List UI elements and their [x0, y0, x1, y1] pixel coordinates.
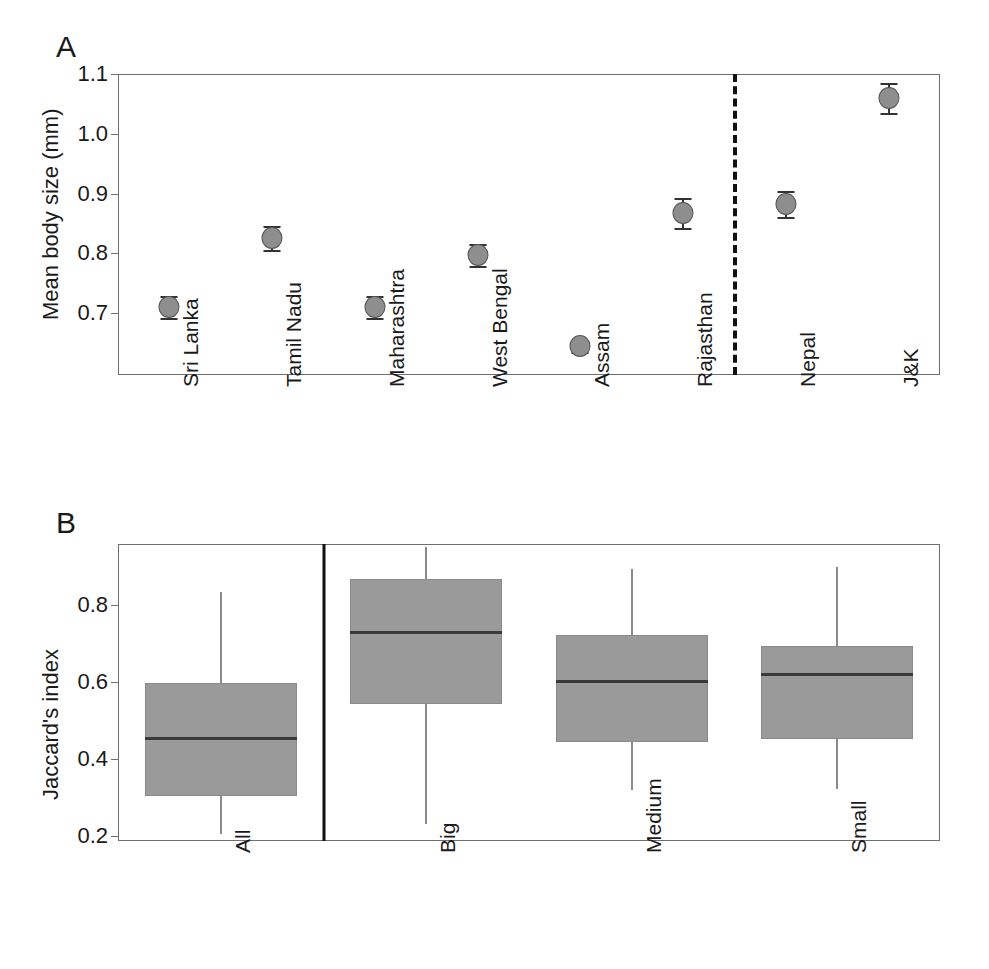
panel-b-median-line	[350, 631, 502, 634]
panel-b-median-line	[556, 680, 708, 683]
panel-b-whisker-upper	[425, 547, 427, 579]
panel-a-error-bar-cap	[675, 228, 692, 230]
panel-a-data-point	[878, 87, 899, 109]
panel-a-xtick-label: Rajasthan	[693, 292, 717, 387]
panel-b-ytick-mark	[111, 836, 118, 837]
panel-b-whisker-lower	[220, 796, 222, 835]
panel-a-ytick-label: 1.1	[50, 61, 108, 87]
panel-b-median-line	[761, 673, 913, 676]
panel-b-ytick-mark	[111, 605, 118, 606]
panel-a-error-bar-cap	[264, 250, 281, 252]
panel-b-xtick-label: Small	[847, 800, 871, 853]
panel-a-plot-frame	[118, 74, 940, 375]
panel-b-median-line	[145, 737, 297, 740]
panel-a-data-point	[159, 296, 180, 318]
panel-a-xtick-label: J&K	[899, 348, 923, 387]
figure-canvas: A Mean body size (mm) 0.70.80.91.01.1 Sr…	[0, 0, 989, 969]
panel-a-xtick-label: Tamil Nadu	[282, 282, 306, 387]
panel-a-error-bar-cap	[777, 217, 794, 219]
panel-b-xtick-label: Medium	[642, 778, 666, 853]
panel-b-ytick-label: 0.8	[50, 592, 108, 618]
panel-b-whisker-upper	[631, 569, 633, 634]
panel-a-xtick-label: Sri Lanka	[179, 298, 203, 387]
panel-b-ytick-label: 0.4	[50, 746, 108, 772]
panel-b-ytick-mark	[111, 759, 118, 760]
panel-b-letter: B	[56, 506, 76, 540]
panel-a-error-bar-cap	[675, 198, 692, 200]
panel-b-xtick-label: Big	[436, 823, 460, 853]
panel-a-xtick-label: Assam	[590, 323, 614, 387]
panel-b-ytick-label: 0.2	[50, 823, 108, 849]
panel-a-xtick-label: West Bengal	[488, 268, 512, 387]
panel-b-whisker-upper	[220, 592, 222, 683]
panel-a-data-point	[673, 202, 694, 224]
panel-a-error-bar-cap	[880, 83, 897, 85]
panel-a-region-divider	[733, 74, 737, 375]
panel-b-group-divider	[322, 544, 325, 841]
panel-a-xtick-label: Nepal	[796, 332, 820, 387]
panel-a-ytick-mark	[111, 74, 118, 75]
panel-a-ytick-label: 0.8	[50, 240, 108, 266]
panel-b-whisker-lower	[425, 704, 427, 824]
panel-a-ytick-mark	[111, 134, 118, 135]
panel-b-whisker-lower	[836, 739, 838, 789]
panel-a-data-point	[775, 193, 796, 215]
panel-a-ytick-mark	[111, 253, 118, 254]
panel-b-ytick-label: 0.6	[50, 669, 108, 695]
panel-a-ytick-label: 1.0	[50, 121, 108, 147]
panel-a-error-bar-cap	[366, 318, 383, 320]
panel-a-ytick-label: 0.7	[50, 300, 108, 326]
panel-a-ytick-label: 0.9	[50, 181, 108, 207]
panel-a-error-bar-cap	[880, 113, 897, 115]
panel-a-ytick-mark	[111, 313, 118, 314]
panel-a-ytick-mark	[111, 194, 118, 195]
panel-b-box	[761, 646, 913, 739]
panel-a-letter: A	[56, 30, 76, 64]
panel-b-whisker-upper	[836, 567, 838, 647]
panel-b-ytick-mark	[111, 682, 118, 683]
panel-a-error-bar-cap	[469, 266, 486, 268]
panel-a-data-point	[262, 227, 283, 249]
panel-a-xtick-label: Maharashtra	[385, 269, 409, 387]
panel-a-data-point	[364, 296, 385, 318]
panel-a-data-point	[570, 335, 591, 357]
panel-a-error-bar-cap	[161, 318, 178, 320]
panel-b-box	[556, 635, 708, 743]
panel-a-data-point	[467, 244, 488, 266]
panel-b-box	[350, 579, 502, 704]
panel-b-whisker-lower	[631, 742, 633, 789]
panel-b-xtick-label: All	[231, 830, 255, 853]
